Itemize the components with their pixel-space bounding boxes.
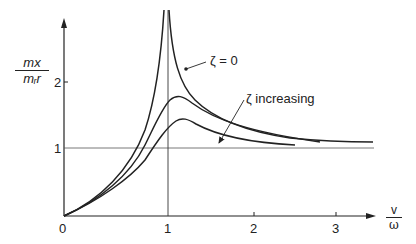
x-axis-label: v ω (386, 203, 402, 233)
annotation-zeta-increasing: ζ increasing (246, 91, 315, 106)
zeta0-leader (186, 62, 206, 69)
y-label-numerator: mx (15, 56, 49, 71)
curve-zeta-small (64, 96, 320, 216)
y-label-denominator: mᵣr (15, 71, 49, 86)
y-tick-label-2: 2 (54, 75, 61, 90)
x-label-denominator: ω (386, 218, 402, 233)
zeta0-leader-dot-icon (184, 67, 188, 71)
chart-svg (0, 0, 416, 244)
x-tick-label-1: 1 (164, 221, 171, 236)
y-axis-arrow-icon (61, 18, 67, 28)
curve-zeta-0-right (169, 10, 373, 142)
x-axis-arrow-icon (366, 213, 376, 219)
curve-zeta-large (64, 119, 295, 216)
x-label-numerator: v (386, 203, 402, 218)
x-tick-label-2: 2 (250, 221, 257, 236)
x-tick-label-0: 0 (59, 221, 66, 236)
x-tick-label-3: 3 (332, 221, 339, 236)
y-axis-label: mx mᵣr (15, 56, 49, 86)
annotation-zeta-0: ζ = 0 (210, 53, 238, 68)
chart-root: mx mᵣr v ω 2 1 0 1 2 3 ζ = 0 ζ increasin… (0, 0, 416, 244)
y-tick-label-1: 1 (54, 141, 61, 156)
